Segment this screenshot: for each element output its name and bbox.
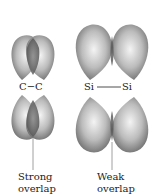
caption-line-1: Weak — [97, 171, 135, 183]
silicon-label-right: Si — [122, 82, 132, 92]
carbon-bottom-lobes — [12, 95, 55, 140]
carbon-top-lobes — [12, 35, 55, 80]
silicon-label-left: Si — [84, 82, 94, 92]
weak-overlap-caption: Weak overlap — [97, 171, 135, 195]
caption-line-1: Strong — [18, 171, 56, 183]
caption-line-2: overlap — [97, 183, 135, 195]
orbital-diagram — [0, 0, 159, 196]
strong-overlap-caption: Strong overlap — [18, 171, 56, 195]
silicon-top-lobes — [76, 25, 149, 80]
carbon-bond-label: C−C — [19, 82, 43, 92]
caption-line-2: overlap — [18, 183, 56, 195]
